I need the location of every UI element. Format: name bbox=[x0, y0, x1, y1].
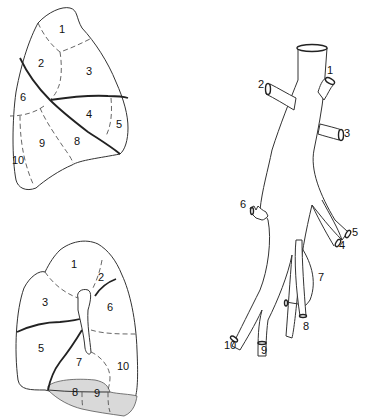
segment-label: 9 bbox=[94, 387, 100, 399]
segment-label: 5 bbox=[38, 342, 44, 354]
branch-8-side-opening bbox=[285, 300, 288, 306]
trachea-opening bbox=[297, 45, 327, 52]
segment-label: 4 bbox=[86, 108, 92, 120]
segment-label: 3 bbox=[86, 65, 92, 77]
segment-label: 2 bbox=[38, 57, 44, 69]
branch-label: 6 bbox=[240, 198, 246, 210]
main-bronchus bbox=[232, 48, 348, 356]
segment-label: 10 bbox=[12, 154, 24, 166]
segment-label: 5 bbox=[116, 118, 122, 130]
branch-8-opening bbox=[300, 315, 307, 318]
segment-label: 7 bbox=[76, 356, 82, 368]
segment-label: 6 bbox=[20, 91, 26, 103]
lower-lung-medial: 1 2 3 6 5 7 10 8 9 bbox=[16, 241, 138, 416]
segment-label: 2 bbox=[98, 271, 104, 283]
segment-label: 6 bbox=[107, 301, 113, 313]
segment-label: 10 bbox=[117, 360, 129, 372]
branch-2-opening bbox=[266, 84, 271, 95]
segment-label: 8 bbox=[74, 135, 80, 147]
branch-label: 4 bbox=[339, 239, 345, 251]
branch-label: 1 bbox=[327, 64, 333, 76]
branch-label: 9 bbox=[261, 344, 267, 356]
branch-label: 8 bbox=[303, 320, 309, 332]
segment-label: 9 bbox=[39, 137, 45, 149]
branch-label: 10 bbox=[224, 339, 236, 351]
branch-label: 3 bbox=[344, 127, 350, 139]
branch-label: 5 bbox=[352, 226, 358, 238]
lung-segments-diagram: 1 2 3 4 5 6 8 9 10 1 2 3 6 5 7 10 8 bbox=[0, 0, 365, 418]
branch-label: 7 bbox=[318, 271, 324, 283]
segment-label: 1 bbox=[59, 23, 65, 35]
upper-lung-lateral: 1 2 3 4 5 6 8 9 10 bbox=[10, 8, 128, 190]
branch-3-opening bbox=[339, 130, 344, 141]
bronchial-tree: 1 2 3 6 5 4 7 8 9 10 bbox=[224, 45, 358, 357]
branch-6-opening bbox=[251, 208, 254, 215]
segment-label: 3 bbox=[42, 296, 48, 308]
branch-label: 2 bbox=[258, 78, 264, 90]
segment-label: 8 bbox=[72, 386, 78, 398]
segment-label: 1 bbox=[71, 258, 77, 270]
